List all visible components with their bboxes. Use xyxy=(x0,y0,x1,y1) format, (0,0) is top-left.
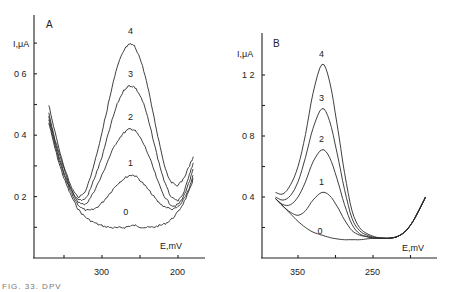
curves-b: 01234 xyxy=(276,49,426,240)
curve-label: 3 xyxy=(319,93,324,103)
x-tick-label: 250 xyxy=(365,267,380,277)
curve-label: 0 xyxy=(123,207,128,217)
y-tick-label: 0 8 xyxy=(242,131,255,141)
curve-2 xyxy=(276,150,426,239)
x-tick-label: 350 xyxy=(290,267,305,277)
panel-a: A I,μA E,mV 3002000 20 40 6 01234 xyxy=(13,15,205,277)
y-tick-label: 0 2 xyxy=(14,192,27,202)
x-axis-label-a: E,mV xyxy=(160,241,182,251)
x-axis-label-b: E,mV xyxy=(402,243,424,253)
curve-1 xyxy=(276,192,426,238)
figure: A I,μA E,mV 3002000 20 40 6 01234 B I,μA… xyxy=(0,0,454,292)
curve-0 xyxy=(49,123,193,228)
y-tick-label: 0 6 xyxy=(14,69,27,79)
curves-a: 01234 xyxy=(49,26,193,228)
curve-label: 2 xyxy=(319,134,324,144)
figure-caption: FIG. 33. DPV xyxy=(2,282,62,291)
curve-label: 0 xyxy=(318,226,323,236)
curve-4 xyxy=(49,44,193,198)
y-axis-label-a: I,μA xyxy=(13,39,29,49)
y-axis-label-b: I,μA xyxy=(237,49,253,59)
curve-label: 3 xyxy=(128,69,133,79)
y-tick-label: 0 4 xyxy=(242,192,255,202)
curve-3 xyxy=(276,109,426,239)
panel-label-a: A xyxy=(46,19,53,30)
x-tick-label: 200 xyxy=(170,267,185,277)
curve-label: 1 xyxy=(128,158,133,168)
y-tick-label: 0 4 xyxy=(14,130,27,140)
curve-label: 1 xyxy=(319,177,324,187)
curve-label: 2 xyxy=(128,112,133,122)
panel-label-b: B xyxy=(273,38,280,49)
curve-label: 4 xyxy=(319,49,324,59)
panel-b: B I,μA E,mV 3502500 40 81 2 01234 xyxy=(237,33,437,277)
y-tick-label: 1 2 xyxy=(242,70,255,80)
x-tick-label: 300 xyxy=(94,267,109,277)
curve-label: 4 xyxy=(128,26,133,36)
ticks-b: 3502500 40 81 2 xyxy=(242,70,411,277)
